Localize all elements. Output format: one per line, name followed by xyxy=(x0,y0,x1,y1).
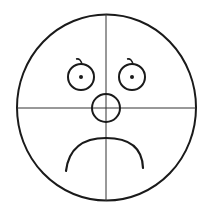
sad-face-drawing xyxy=(0,0,201,217)
right-eye xyxy=(119,59,145,90)
sad-face-figure xyxy=(0,0,201,217)
left-eye xyxy=(68,59,94,90)
left-pupil xyxy=(79,75,83,79)
right-pupil xyxy=(130,75,134,79)
frown-mouth xyxy=(66,138,143,171)
